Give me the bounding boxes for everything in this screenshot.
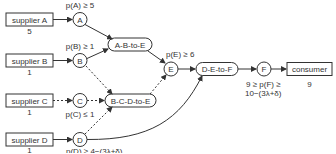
supplier-d-value: 1 (27, 146, 32, 153)
consumer: consumer 9 (287, 63, 332, 90)
supplier-d: supplier D 1 (6, 133, 53, 153)
node-a: A p(A) ≥ 5 (66, 1, 95, 27)
process-d-e-to-f: D-E-to-F (196, 63, 238, 76)
edge-d-to-def (87, 76, 202, 140)
edge-b-to-bcde (86, 66, 112, 94)
process-a-b-to-e: A-B-to-E (108, 38, 152, 51)
process-d-e-to-f-label: D-E-to-F (202, 65, 233, 74)
node-a-label: A (77, 16, 83, 25)
node-b: B p(B) ≥ 1 (66, 42, 95, 68)
edge-abe-to-e (148, 51, 165, 63)
supplier-a-value: 5 (27, 27, 32, 36)
process-a-b-to-e-label: A-B-to-E (115, 41, 146, 50)
supplier-b-value: 1 (27, 68, 32, 77)
supplier-a: supplier A 5 (6, 13, 53, 36)
consumer-value: 9 (307, 80, 312, 89)
supplier-a-label: supplier A (12, 16, 48, 25)
node-c: C p(C) ≤ 1 (66, 94, 95, 120)
node-f: F 9 ≥ p(F) ≥ 10−(3λ+δ) (245, 62, 282, 98)
supplier-b: supplier B 1 (6, 54, 53, 77)
supplier-c-label: supplier C (11, 97, 47, 106)
node-b-label: B (77, 57, 82, 66)
consumer-label: consumer (292, 65, 327, 74)
supplier-c-value: 1 (27, 108, 32, 117)
node-c-constraint: p(C) ≤ 1 (66, 110, 95, 119)
node-a-constraint: p(A) ≥ 5 (66, 1, 95, 10)
node-b-constraint: p(B) ≥ 1 (66, 42, 95, 51)
supplier-d-label: supplier D (11, 136, 47, 145)
node-c-label: C (77, 97, 83, 106)
node-e: E p(E) ≥ 6 (164, 50, 195, 76)
node-d-constraint: p(D) ≥ 4−(3λ+δ) (66, 147, 123, 153)
supplier-b-label: supplier B (12, 57, 48, 66)
node-e-label: E (168, 65, 173, 74)
node-d: D p(D) ≥ 4−(3λ+δ) (66, 133, 123, 154)
node-f-constraint-1: 9 ≥ p(F) ≥ (246, 80, 281, 89)
node-d-label: D (77, 136, 83, 145)
edge-bcde-to-e (150, 75, 166, 94)
node-f-label: F (262, 65, 267, 74)
process-b-c-d-to-e-label: B-C-D-to-E (111, 97, 151, 106)
node-f-constraint-2: 10−(3λ+δ) (245, 89, 282, 98)
node-e-constraint: p(E) ≥ 6 (166, 50, 195, 59)
supplier-c: supplier C 1 (6, 94, 53, 117)
supply-chain-diagram: supplier A 5 supplier B 1 supplier C 1 s… (0, 0, 336, 153)
process-b-c-d-to-e: B-C-D-to-E (105, 94, 156, 107)
edge-a-to-abe (85, 25, 112, 40)
